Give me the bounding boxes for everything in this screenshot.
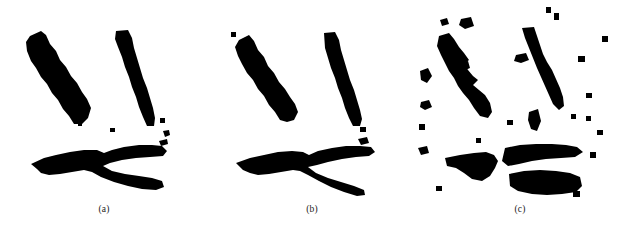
panel-c-right-handle-fragment xyxy=(514,53,529,63)
panel-a-image xyxy=(0,0,208,200)
panel-b-left-handle xyxy=(235,35,298,122)
panel-c-noise-speck xyxy=(418,146,429,155)
panel-c-noise-speck xyxy=(546,7,551,13)
panel-a-caption: (a) xyxy=(0,203,208,215)
figure-root: (a) (b) xyxy=(0,0,625,237)
panel-c-right-handle-fragment xyxy=(528,109,541,131)
panel-c-noise-speck xyxy=(586,93,592,98)
panel-c-noise-speck xyxy=(420,68,432,83)
panel-c-noise-speck xyxy=(578,56,585,62)
panel-c-caption: (c) xyxy=(416,203,624,215)
panel-c-noise-speck xyxy=(419,124,425,130)
panel-c-noise-speck xyxy=(554,13,559,20)
panel-c-noise-speck xyxy=(590,152,596,158)
figure-panel-a: (a) xyxy=(0,0,208,237)
panel-c-noise-speck xyxy=(440,18,449,26)
panel-b-noise-speck xyxy=(231,32,236,37)
panel-b-noise-speck xyxy=(360,127,366,132)
panel-c-noise-speck xyxy=(420,100,432,110)
panel-a-jaw-fork xyxy=(31,145,167,190)
panel-c-noise-speck xyxy=(507,120,513,125)
panel-c-noise-speck xyxy=(459,17,474,29)
panel-c-jaw-blob-lower-right xyxy=(509,170,582,195)
panel-a-noise-speck xyxy=(110,128,115,132)
panel-c-noise-speck xyxy=(602,36,608,42)
panel-b-right-handle xyxy=(324,32,362,126)
panel-a-right-handle xyxy=(115,30,155,126)
panel-a-noise-speck xyxy=(159,139,168,146)
panel-c-jaw-blob-upper-right xyxy=(502,144,583,166)
panel-b-caption: (b) xyxy=(208,203,416,215)
panel-c-noise-speck xyxy=(571,114,576,119)
panel-c-noise-speck xyxy=(573,191,580,197)
panel-c-right-handle-broken xyxy=(522,27,564,110)
panel-b-jaw-fork xyxy=(236,146,375,196)
panel-c-noise-speck xyxy=(476,138,481,143)
panel-c-image xyxy=(416,0,624,200)
panel-c-left-handle-broken xyxy=(437,33,492,118)
panel-c-noise-speck xyxy=(586,116,591,121)
panel-a-noise-speck xyxy=(78,122,82,126)
panel-b-noise-speck xyxy=(358,137,369,145)
panel-c-noise-speck xyxy=(436,186,442,191)
panel-a-left-handle xyxy=(26,31,91,124)
panel-a-noise-speck xyxy=(163,130,170,137)
panel-c-jaw-blob-left xyxy=(445,152,498,181)
panel-c-noise-speck xyxy=(597,130,603,135)
figure-panel-c: (c) xyxy=(416,0,624,237)
panel-a-noise-speck xyxy=(160,118,165,123)
panel-b-image xyxy=(208,0,416,200)
figure-panel-b: (b) xyxy=(208,0,416,237)
